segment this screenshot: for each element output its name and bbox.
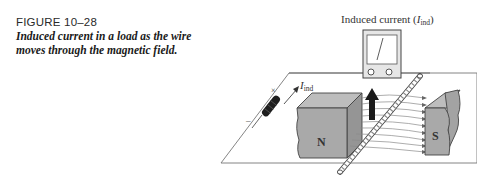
galvanometer [363,30,401,78]
north-pole-label: N [317,135,326,149]
south-pole-label: S [432,129,439,143]
meter-terminal-right-icon [386,69,392,75]
load-plus-label: × [271,86,276,95]
south-magnet [425,90,460,155]
current-direction-arrow-icon [284,86,299,104]
meter-terminal-left-icon [368,69,374,75]
current-arrow-label: Iind [299,79,314,93]
induction-diagram: Induced current (Iind) × – Iind N [0,0,477,178]
load-resistor [252,94,281,128]
load-minus-label: – [245,115,251,125]
north-magnet [297,93,362,158]
meter-label: Induced current (Iind) [341,13,434,27]
